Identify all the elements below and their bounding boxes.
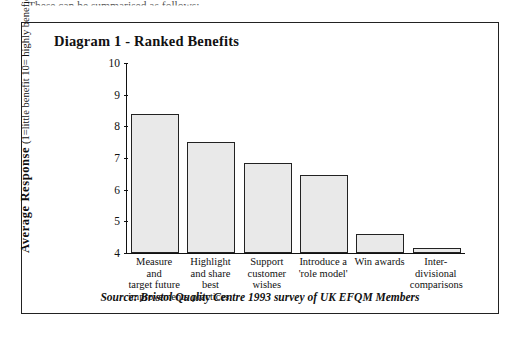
x-category-label-line: Inter- bbox=[410, 256, 462, 268]
x-category-label-line: customer bbox=[241, 268, 293, 280]
x-category-label-line: and share bbox=[184, 268, 236, 280]
y-tick-label: 10 bbox=[109, 57, 121, 69]
x-category-label-line: Win awards bbox=[353, 256, 405, 268]
bar bbox=[187, 142, 235, 253]
x-category-label-line: Introduce a bbox=[297, 256, 349, 268]
y-tick-label: 4 bbox=[114, 247, 120, 259]
chart-title: Diagram 1 - Ranked Benefits bbox=[54, 33, 239, 50]
x-category-label-line: 'role model' bbox=[297, 268, 349, 280]
bar bbox=[413, 248, 461, 253]
y-axis-label: Average Response (1=little benefit 10= h… bbox=[18, 63, 33, 253]
bar-series bbox=[127, 63, 465, 253]
x-category-label-line: Support bbox=[241, 256, 293, 268]
y-tick-label: 5 bbox=[114, 215, 120, 227]
y-tick-label: 9 bbox=[114, 89, 120, 101]
diagram-figure-box: Diagram 1 - Ranked Benefits Average Resp… bbox=[21, 22, 499, 314]
y-axis-ticks: 45678910 bbox=[96, 56, 124, 260]
source-note: Source: Bristol Quality Centre 1993 surv… bbox=[22, 291, 498, 303]
x-category-label-line: wishes bbox=[241, 279, 293, 291]
bar bbox=[356, 234, 404, 253]
y-axis-label-main: Average Response bbox=[18, 147, 32, 253]
bar bbox=[244, 163, 292, 253]
y-tick-label: 7 bbox=[114, 152, 120, 164]
y-tick-label: 6 bbox=[114, 184, 120, 196]
y-axis-label-sub: (1=little benefit 10= highly beneficial) bbox=[20, 0, 31, 144]
plot-area bbox=[126, 63, 465, 254]
x-category-label-line: Highlight bbox=[184, 256, 236, 268]
x-category-label-line: target future bbox=[128, 279, 180, 291]
x-category-label-line: Measure and bbox=[128, 256, 180, 279]
x-category-label-line: divisional bbox=[410, 268, 462, 280]
y-tick-label: 8 bbox=[114, 120, 120, 132]
x-category-label-line: comparisons bbox=[410, 279, 462, 291]
page-intro-text: These can be summarised as follows: bbox=[28, 0, 200, 12]
bar bbox=[131, 114, 179, 253]
bar bbox=[300, 175, 348, 253]
